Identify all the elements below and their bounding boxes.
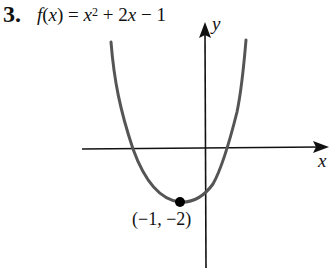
parabola-curve [111,40,246,202]
vertex-label: (−1, −2) [132,209,191,230]
y-axis [205,34,206,268]
x-axis-label: x [318,150,326,172]
y-axis-label: y [212,13,220,35]
x-axis [82,147,320,149]
vertex-point [175,197,185,207]
